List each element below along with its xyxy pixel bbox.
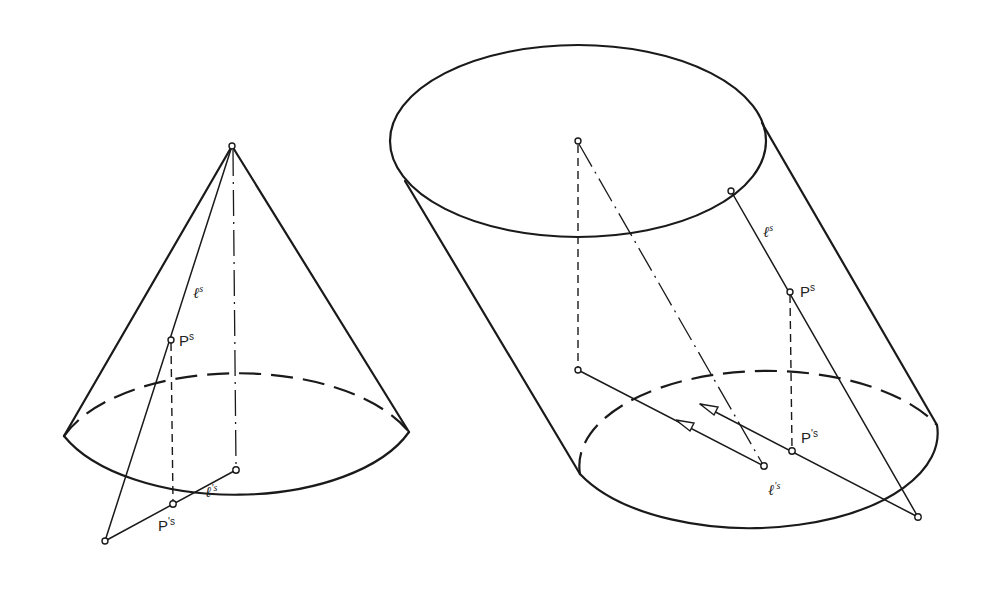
cone-base-center-point <box>233 467 239 473</box>
cylinder-bottom-center-point <box>761 463 767 469</box>
cone-base-back-arc <box>64 373 409 436</box>
geometry-figure: ℓs Ps ℓ's P's <box>0 0 992 603</box>
cylinder-bottom-back-arc <box>579 371 937 474</box>
cone-label-l-prime: ℓ's <box>205 482 217 500</box>
cylinder-base-point <box>915 514 921 520</box>
cylinder-label-l-prime: ℓ's <box>768 480 780 498</box>
cone-left-generator <box>64 146 232 436</box>
cone-figure: ℓs Ps ℓ's P's <box>64 143 409 544</box>
cone-axis <box>233 150 236 467</box>
cone-label-l: ℓs <box>193 283 203 301</box>
cylinder-figure: ℓs Ps P's ℓ's <box>390 45 938 528</box>
cylinder-point-P <box>787 289 793 295</box>
cone-point-P-prime <box>170 501 176 507</box>
cylinder-bottom-front-arc <box>580 425 938 528</box>
cone-point-P <box>168 337 174 343</box>
cylinder-label-P-prime: P's <box>801 428 818 446</box>
cone-apex-point <box>229 143 235 149</box>
cylinder-left-generator <box>405 181 580 474</box>
cone-label-P: Ps <box>179 331 194 349</box>
cylinder-point-P-prime <box>789 448 795 454</box>
cylinder-label-l: ℓs <box>763 222 773 240</box>
cylinder-foot-point <box>575 367 581 373</box>
cone-base-point <box>102 538 108 544</box>
cylinder-label-P: Ps <box>800 282 815 300</box>
cylinder-top-center-point <box>575 138 581 144</box>
arrow-head-icon <box>676 420 694 431</box>
cone-label-P-prime: P's <box>158 516 175 534</box>
cone-right-generator <box>232 146 409 432</box>
arrow-head-icon <box>700 404 718 415</box>
cylinder-right-generator <box>762 123 937 425</box>
cone-projector <box>171 343 173 501</box>
cylinder-top-point <box>728 188 734 194</box>
